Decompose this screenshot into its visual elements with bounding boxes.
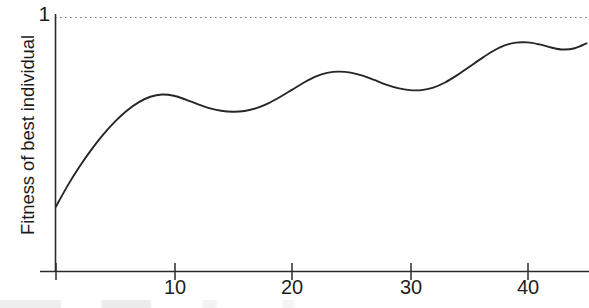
x-axis-tick-label-20: 20: [262, 276, 322, 299]
x-axis-tick-label-30: 30: [381, 276, 441, 299]
fitness-chart-figure: 1 Fitness of best individual 10 20 30 40: [0, 0, 589, 308]
y-axis-title: Fitness of best individual: [17, 11, 39, 259]
fitness-curve: [56, 42, 587, 206]
x-axis-tick-label-40: 40: [498, 276, 558, 299]
chart-plot-area: [0, 0, 589, 308]
x-axis-tick-label-10: 10: [145, 276, 205, 299]
